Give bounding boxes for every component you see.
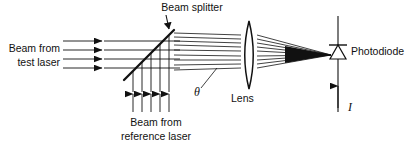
beam-splitter-label: Beam splitter (155, 1, 229, 13)
reference-laser-beam (133, 36, 169, 112)
combined-ray (174, 55, 241, 56)
theta-leader-line (201, 68, 217, 88)
combined-ray (174, 64, 241, 65)
diagram-canvas (0, 0, 415, 145)
beam-splitter (124, 30, 174, 80)
lens-label: Lens (231, 92, 254, 104)
theta-label: θ (194, 86, 200, 98)
photodiode-triangle (330, 45, 346, 59)
optics-diagram-figure: Beam splitter Beam from test laser Beam … (0, 0, 415, 145)
reference-laser-label-line1: Beam from (111, 116, 201, 128)
combined-beam-to-lens (174, 33, 241, 70)
combined-ray (174, 68, 241, 70)
combined-ray (174, 33, 241, 35)
reference-laser-label-line2: reference laser (105, 130, 207, 142)
converging-beam (257, 35, 331, 68)
combined-ray (174, 37, 241, 39)
test-laser-label-line2: test laser (0, 56, 60, 68)
test-laser-beam (63, 41, 180, 68)
test-laser-label-line1: Beam from (0, 42, 60, 54)
combined-ray (174, 45, 241, 47)
current-label: I (348, 101, 352, 113)
combined-ray (174, 50, 241, 51)
beam-splitter-pointer (166, 15, 169, 29)
lens (245, 21, 254, 89)
photodiode-label: Photodiode (351, 45, 404, 57)
combined-ray (174, 41, 241, 43)
